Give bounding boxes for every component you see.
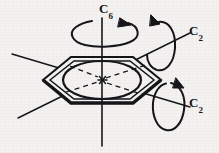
c2-lower-symbol: C — [189, 95, 198, 110]
symmetry-diagram-figure: C6 C2 C2 — [0, 0, 219, 153]
c2-upper-subscript: 2 — [198, 33, 203, 43]
c2-lower-axis-label: C2 — [189, 96, 203, 113]
c2-lower-subscript: 2 — [198, 105, 203, 115]
diagram-canvas — [0, 0, 219, 153]
c6-axis-label: C6 — [99, 2, 113, 19]
c6-symbol: C — [99, 1, 108, 16]
c2-upper-symbol: C — [189, 23, 198, 38]
c6-rotation-arrow — [72, 18, 138, 47]
c2-upper-axis-label: C2 — [189, 24, 203, 41]
c6-subscript: 6 — [108, 11, 113, 21]
